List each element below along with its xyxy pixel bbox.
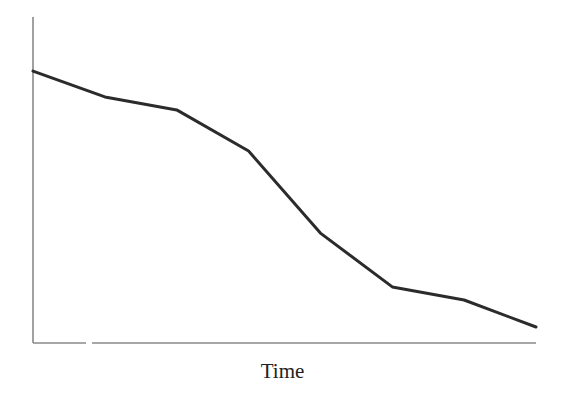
line-chart [0,0,563,400]
x-axis-label: Time [261,359,305,384]
data-line [33,71,536,327]
x-axis-label-container: Time [0,359,563,384]
